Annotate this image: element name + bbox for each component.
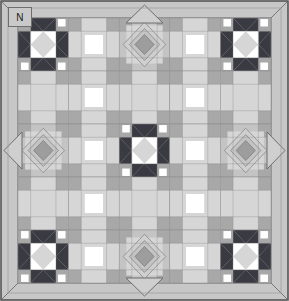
block-sash-r5c4 xyxy=(170,230,221,283)
block-sash-r2c4 xyxy=(170,71,221,124)
block-medallion-r5c3 xyxy=(119,230,170,283)
block-sash-r1c2 xyxy=(69,18,120,71)
block-sash-r2c3 xyxy=(119,71,170,124)
block-sash-r4c2 xyxy=(69,177,120,230)
block-sash-r1c4 xyxy=(170,18,221,71)
block-medallion-r3c1 xyxy=(18,124,69,177)
block-medallion-r1c3 xyxy=(119,18,170,71)
block-sash-r3c4 xyxy=(170,124,221,177)
north-orientation-label: N xyxy=(8,7,32,27)
block-sash-r3c2 xyxy=(69,124,120,177)
block-sash-r4c3 xyxy=(119,177,170,230)
block-sash-r5c2 xyxy=(69,230,120,283)
block-sash-r2c1 xyxy=(18,71,69,124)
block-grid xyxy=(18,18,271,283)
block-medallion-r3c5 xyxy=(220,124,271,177)
block-star-r5c5 xyxy=(220,230,271,283)
block-sash-r2c2 xyxy=(69,71,120,124)
quilt-pattern xyxy=(0,0,289,301)
block-star-r5c1 xyxy=(18,230,69,283)
block-star-r1c5 xyxy=(220,18,271,71)
block-sash-r2c5 xyxy=(220,71,271,124)
quilt-diagram-canvas: N xyxy=(0,0,289,301)
block-star-r3c3 xyxy=(119,124,170,177)
block-sash-r4c5 xyxy=(220,177,271,230)
block-sash-r4c1 xyxy=(18,177,69,230)
block-sash-r4c4 xyxy=(170,177,221,230)
